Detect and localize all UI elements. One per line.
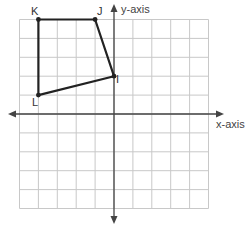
vertex-label-i: I bbox=[116, 73, 119, 85]
vertex-label-l: L bbox=[32, 96, 38, 108]
x-axis-label: x-axis bbox=[216, 118, 245, 130]
vertex-label-j: J bbox=[97, 5, 103, 17]
y-axis-label: y-axis bbox=[121, 3, 150, 15]
vertex-point-k bbox=[36, 17, 41, 22]
y-axis-down-arrow-icon bbox=[111, 216, 118, 224]
x-axis-right-arrow-icon bbox=[216, 111, 224, 118]
x-axis-left-arrow-icon bbox=[8, 111, 16, 118]
axes: x-axis y-axis bbox=[8, 3, 245, 224]
vertex-label-k: K bbox=[31, 5, 39, 17]
y-axis-up-arrow-icon bbox=[111, 4, 118, 12]
coordinate-plane: x-axis y-axis K J I L bbox=[0, 0, 250, 228]
vertex-point-j bbox=[93, 17, 98, 22]
